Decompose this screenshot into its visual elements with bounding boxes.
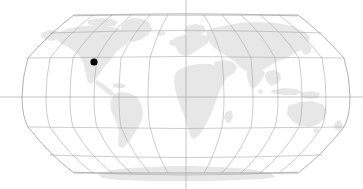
location-marker[interactable] [90, 58, 97, 65]
world-map-svg[interactable] [0, 0, 363, 189]
world-map-figure [0, 0, 363, 189]
